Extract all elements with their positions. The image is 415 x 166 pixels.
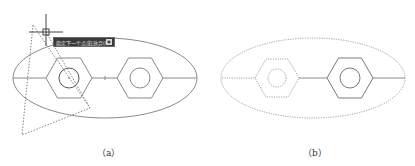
ring-right-a[interactable] <box>130 68 150 88</box>
tooltip-text: 指定下一个点或[放弃(U)] <box>54 39 106 46</box>
keyboard-icon: ▣ <box>106 39 112 45</box>
cad-figure <box>0 0 415 166</box>
hexagon-left-b[interactable] <box>255 59 299 97</box>
panel-a <box>13 14 197 135</box>
caption-b: （b） <box>303 146 327 159</box>
panel-b <box>221 38 405 118</box>
ring-right-b[interactable] <box>340 68 360 88</box>
hexagon-right-b[interactable] <box>327 58 373 98</box>
hexagon-right-a[interactable] <box>117 58 163 98</box>
command-tooltip: 指定下一个点或[放弃(U)] ▣ <box>53 37 115 47</box>
ring-left-b[interactable] <box>268 69 286 87</box>
caption-a: （a） <box>97 146 120 159</box>
